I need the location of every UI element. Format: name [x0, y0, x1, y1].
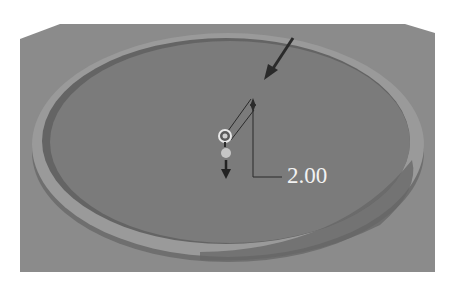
cad-viewport[interactable]: 2.00 [0, 0, 452, 290]
model-canvas[interactable] [0, 0, 452, 290]
anchor-point-icon[interactable] [221, 148, 231, 158]
dimension-value[interactable]: 2.00 [287, 164, 327, 187]
